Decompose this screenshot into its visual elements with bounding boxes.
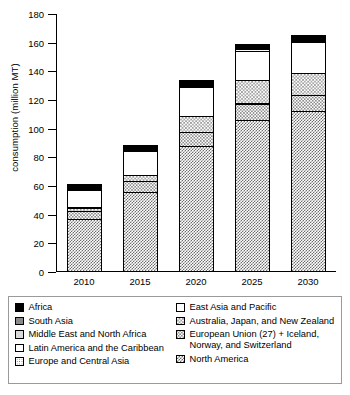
y-tick-mark — [48, 272, 56, 273]
y-tick-mark — [48, 243, 56, 244]
legend-item[interactable]: Africa — [15, 302, 176, 313]
light-grey-swatch-icon — [15, 330, 24, 339]
y-tick-label: 120 — [0, 96, 44, 106]
bar-segment — [291, 111, 326, 272]
y-tick-label: 80 — [0, 153, 44, 163]
medium-checker-swatch-icon — [176, 317, 185, 326]
bar-segment — [291, 35, 326, 38]
legend: AfricaSouth AsiaMiddle East and North Af… — [8, 296, 342, 384]
bar-segment — [235, 120, 270, 272]
legend-item[interactable]: Australia, Japan, and New Zealand — [176, 316, 337, 327]
black-swatch-icon — [15, 303, 24, 312]
legend-item-label: Middle East and North Africa — [29, 329, 147, 340]
bar-segment — [67, 219, 102, 272]
legend-item-label: Europe and Central Asia — [29, 356, 130, 367]
y-tick-label: 180 — [0, 10, 44, 20]
y-tick-label: 0 — [0, 268, 44, 278]
x-tick-label: 2020 — [166, 276, 226, 287]
x-tick-label: 2010 — [54, 276, 114, 287]
legend-item[interactable]: European Union (27) + Iceland, Norway, a… — [176, 329, 337, 351]
stacked-bar[interactable] — [67, 184, 102, 272]
y-tick-label: 100 — [0, 124, 44, 134]
white-swatch-icon — [15, 344, 24, 353]
y-tick-label: 60 — [0, 182, 44, 192]
bar-segment — [179, 132, 214, 146]
bar-segment — [67, 211, 102, 220]
y-tick-label: 140 — [0, 67, 44, 77]
y-axis-label: consumption (million MT) — [9, 43, 20, 193]
legend-item[interactable]: South Asia — [15, 316, 176, 327]
stacked-bar[interactable] — [291, 35, 326, 272]
bar-segment — [235, 51, 270, 81]
x-tick-label: 2025 — [222, 276, 282, 287]
bar-segment — [123, 181, 158, 192]
bar-segment — [123, 192, 158, 272]
bar-segment — [291, 95, 326, 112]
light-dot-swatch-icon — [176, 330, 185, 339]
legend-item[interactable]: North America — [176, 354, 337, 365]
bar-segment — [235, 80, 270, 104]
y-tick-mark — [48, 43, 56, 44]
legend-item[interactable]: Middle East and North Africa — [15, 329, 176, 340]
y-tick-mark — [48, 186, 56, 187]
legend-item-label: Latin America and the Caribbean — [29, 343, 164, 354]
legend-item[interactable]: Latin America and the Caribbean — [15, 343, 176, 354]
stacked-bar[interactable] — [179, 80, 214, 272]
grey-swatch-icon — [15, 317, 24, 326]
legend-item-label: Australia, Japan, and New Zealand — [190, 316, 335, 327]
legend-item-label: European Union (27) + Iceland, Norway, a… — [190, 329, 338, 351]
bar-segment — [179, 87, 214, 117]
white-swatch-icon — [176, 303, 185, 312]
y-tick-mark — [48, 215, 56, 216]
legend-item[interactable]: East Asia and Pacific — [176, 302, 337, 313]
legend-item-label: North America — [190, 354, 249, 365]
x-tick-label: 2015 — [110, 276, 170, 287]
y-tick-mark — [48, 157, 56, 158]
bar-segment — [235, 44, 270, 47]
bar-segment — [67, 190, 102, 209]
x-tick-label: 2030 — [278, 276, 338, 287]
legend-item-label: Africa — [29, 302, 53, 313]
stacked-bar[interactable] — [123, 145, 158, 272]
bar-segment — [67, 184, 102, 186]
dark-checker-swatch-icon — [176, 355, 185, 364]
y-tick-mark — [48, 71, 56, 72]
y-tick-mark — [48, 100, 56, 101]
legend-item[interactable]: Europe and Central Asia — [15, 356, 176, 367]
fine-dot-swatch-icon — [15, 357, 24, 366]
bar-segment — [179, 116, 214, 133]
y-tick-label: 160 — [0, 38, 44, 48]
bar-segment — [291, 42, 326, 74]
legend-left-column: AfricaSouth AsiaMiddle East and North Af… — [15, 302, 176, 379]
legend-item-label: East Asia and Pacific — [190, 302, 277, 313]
y-tick-label: 40 — [0, 210, 44, 220]
y-tick-label: 20 — [0, 239, 44, 249]
bar-segment — [179, 80, 214, 83]
legend-right-column: East Asia and PacificAustralia, Japan, a… — [176, 302, 337, 379]
bar-segment — [123, 145, 158, 147]
y-tick-mark — [48, 14, 56, 15]
bar-segment — [179, 146, 214, 272]
bar-segment — [291, 73, 326, 96]
y-tick-mark — [48, 129, 56, 130]
bar-segment — [123, 151, 158, 175]
bar-segment — [123, 175, 158, 182]
legend-item-label: South Asia — [29, 316, 73, 327]
plot-area: consumption (million MT) 020406080100120… — [0, 0, 350, 288]
stacked-bar[interactable] — [235, 44, 270, 272]
bar-segment — [235, 104, 270, 121]
chart-root: consumption (million MT) 020406080100120… — [0, 0, 350, 395]
